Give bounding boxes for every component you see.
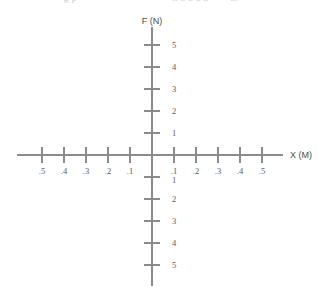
cartesian-graph: .5 .4 .3 .2 .1 .1 .2 .3 .4 .5 5 4 3 2 1 …: [0, 0, 319, 296]
y-tick-label-pos-3: 3: [172, 84, 176, 94]
y-tick-label-pos-4: 4: [172, 62, 177, 72]
x-tick-label-pos-2: .2: [193, 166, 199, 176]
x-tick-label-pos-4: .4: [237, 166, 244, 176]
graph-page: g pn n n n nn.: [0, 0, 319, 296]
y-tick-label-pos-5: 5: [172, 40, 176, 50]
y-tick-label-neg-4: 4: [172, 238, 177, 248]
x-tick-label-pos-5: .5: [259, 166, 265, 176]
y-tick-label-neg-2: 2: [172, 194, 176, 204]
x-tick-label-neg-2: .2: [105, 166, 111, 176]
y-tick-label-pos-2: 2: [172, 106, 176, 116]
y-tick-label-neg-3: 3: [172, 216, 176, 226]
y-tick-label-neg-1: 1: [172, 175, 176, 185]
y-tick-label-neg-5: 5: [172, 260, 176, 270]
x-tick-label-neg-3: .3: [83, 166, 89, 176]
y-axis-title: F (N): [142, 16, 163, 26]
x-tick-label-neg-5: .5: [39, 166, 45, 176]
y-tick-label-pos-1: 1: [172, 128, 176, 138]
x-tick-label-neg-1: .1: [127, 166, 133, 176]
x-tick-label-neg-4: .4: [61, 166, 68, 176]
x-axis-title: X (M): [290, 150, 312, 160]
x-tick-label-pos-3: .3: [215, 166, 221, 176]
